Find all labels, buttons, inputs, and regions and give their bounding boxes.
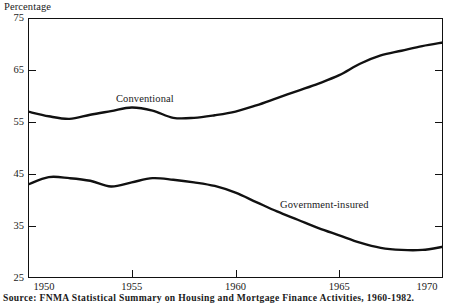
- y-tick-label: 65: [2, 64, 24, 75]
- x-tick-mark: [236, 270, 237, 278]
- y-tick-mark: [28, 226, 36, 227]
- series-line-conventional: [28, 42, 443, 118]
- y-tick-mark: [28, 122, 36, 123]
- y-tick-mark: [435, 70, 443, 71]
- x-tick-mark: [339, 270, 340, 278]
- x-tick-label: 1955: [112, 281, 152, 292]
- x-tick-label: 1965: [319, 281, 359, 292]
- x-tick-label: 1950: [24, 281, 64, 292]
- y-tick-mark: [435, 226, 443, 227]
- y-tick-mark: [28, 174, 36, 175]
- y-tick-mark: [435, 122, 443, 123]
- source-note: Source: FNMA Statistical Summary on Hous…: [3, 292, 414, 303]
- y-tick-label: 45: [2, 168, 24, 179]
- y-tick-mark: [28, 70, 36, 71]
- x-tick-label: 1960: [216, 281, 256, 292]
- y-tick-label: 25: [2, 272, 24, 283]
- y-tick-label: 35: [2, 220, 24, 231]
- y-tick-label: 75: [2, 12, 24, 23]
- plot-lines: [28, 18, 443, 278]
- y-tick-label: 55: [2, 116, 24, 127]
- series-line-government-insured: [28, 177, 443, 250]
- y-tick-mark: [435, 174, 443, 175]
- x-tick-mark: [132, 270, 133, 278]
- series-label-government-insured: Government-insured: [280, 199, 369, 211]
- series-label-conventional: Conventional: [116, 93, 174, 105]
- x-tick-label: 1970: [407, 281, 447, 292]
